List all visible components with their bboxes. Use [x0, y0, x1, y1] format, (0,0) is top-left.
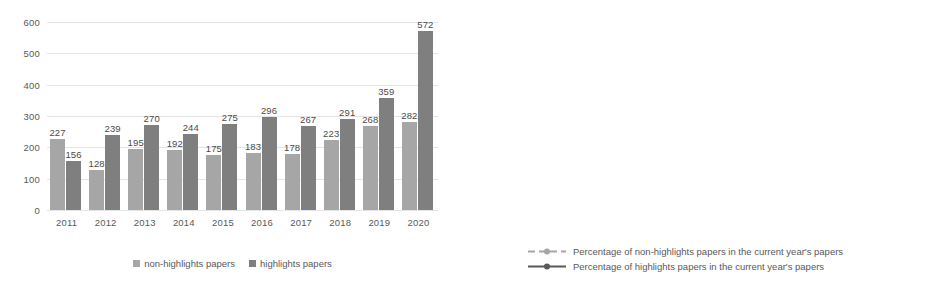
- legend-swatch-icon: [249, 260, 256, 267]
- bar: [402, 122, 417, 210]
- bar-value-label: 291: [339, 107, 355, 118]
- bar: [324, 140, 339, 210]
- bar-chart-legend: non-highlights papershighlights papers: [0, 258, 465, 269]
- bar-value-label: 275: [222, 112, 238, 123]
- bar: [183, 134, 198, 210]
- bar-value-label: 282: [401, 110, 417, 121]
- x-axis-tick-label: 2011: [56, 217, 77, 228]
- bar-group: 195270: [125, 22, 164, 210]
- bar-group: 128239: [86, 22, 125, 210]
- bar: [418, 31, 433, 210]
- x-axis-tick-label: 2018: [329, 217, 351, 228]
- bar-value-label: 267: [300, 114, 316, 125]
- bar-value-label: 128: [89, 158, 105, 169]
- bar: [222, 124, 237, 210]
- figure-container: 0100200300400500600 22715612823919527019…: [0, 0, 931, 289]
- legend-line-marker-icon: [527, 262, 567, 271]
- bar: [340, 119, 355, 210]
- bar-value-label: 178: [284, 142, 300, 153]
- bar-value-label: 175: [206, 143, 222, 154]
- bar: [206, 155, 221, 210]
- y-axis-tick-label: 200: [24, 142, 40, 153]
- y-axis-tick-label: 300: [24, 111, 40, 122]
- y-axis-tick-label: 0: [35, 205, 40, 216]
- legend-label: non-highlights papers: [144, 258, 235, 269]
- y-axis-tick-label: 600: [24, 17, 40, 28]
- bar-value-label: 359: [378, 86, 394, 97]
- bar-group: 268359: [360, 22, 399, 210]
- legend-label: Percentage of highlights papers in the c…: [573, 261, 824, 272]
- bar-value-label: 572: [417, 19, 433, 30]
- bar-value-label: 268: [362, 114, 378, 125]
- bar-group: 227156: [47, 22, 86, 210]
- bar: [246, 153, 261, 210]
- bar-value-label: 239: [105, 123, 121, 134]
- bar-group: 282572: [399, 22, 438, 210]
- legend-swatch-icon: [133, 260, 140, 267]
- x-axis-tick-label: 2016: [251, 217, 273, 228]
- legend-item[interactable]: Percentage of non-highlights papers in t…: [465, 246, 931, 257]
- x-axis-tick-label: 2012: [95, 217, 117, 228]
- bar-value-label: 270: [144, 113, 160, 124]
- bar-value-label: 296: [261, 105, 277, 116]
- bar: [363, 126, 378, 210]
- legend-item[interactable]: non-highlights papers: [133, 258, 235, 269]
- bar-value-label: 244: [183, 122, 199, 133]
- legend-label: highlights papers: [260, 258, 332, 269]
- legend-label: Percentage of non-highlights papers in t…: [573, 246, 843, 257]
- bar: [262, 117, 277, 210]
- line-chart-legend: Percentage of non-highlights papers in t…: [465, 246, 931, 276]
- bar-group: 178267: [282, 22, 321, 210]
- x-axis-tick-label: 2020: [407, 217, 429, 228]
- y-axis-tick-label: 400: [24, 79, 40, 90]
- line-chart-panel: 0%10%20%30%40%50%60%70%80%90%100% 59%35%…: [465, 0, 931, 289]
- bar: [105, 135, 120, 210]
- bar: [379, 98, 394, 210]
- bar-value-label: 223: [323, 128, 339, 139]
- bar-chart-panel: 0100200300400500600 22715612823919527019…: [0, 0, 465, 289]
- bar-value-label: 195: [128, 137, 144, 148]
- bar: [301, 126, 316, 210]
- x-axis-tick-label: 2013: [134, 217, 156, 228]
- bar: [50, 139, 65, 210]
- bar-group: 192244: [164, 22, 203, 210]
- legend-item[interactable]: Percentage of highlights papers in the c…: [465, 261, 931, 272]
- legend-item[interactable]: highlights papers: [249, 258, 332, 269]
- x-axis-tick-label: 2017: [290, 217, 312, 228]
- bar-value-label: 156: [65, 149, 81, 160]
- y-axis-tick-label: 100: [24, 173, 40, 184]
- bar: [128, 149, 143, 210]
- bar-value-label: 183: [245, 141, 261, 152]
- bar: [66, 161, 81, 210]
- bar: [89, 170, 104, 210]
- bar: [285, 154, 300, 210]
- gridline: [47, 210, 438, 211]
- x-axis-tick-label: 2019: [368, 217, 390, 228]
- y-axis-tick-label: 500: [24, 48, 40, 59]
- bar-group: 175275: [203, 22, 242, 210]
- bar-chart-plot-area: 0100200300400500600 22715612823919527019…: [47, 22, 438, 210]
- bar: [144, 125, 159, 210]
- bar-group: 223291: [321, 22, 360, 210]
- bar-group: 183296: [243, 22, 282, 210]
- x-axis-tick-label: 2015: [212, 217, 234, 228]
- bar-value-label: 192: [167, 138, 183, 149]
- x-axis-tick-label: 2014: [173, 217, 195, 228]
- bar: [167, 150, 182, 210]
- bar-value-label: 227: [49, 127, 65, 138]
- legend-line-marker-icon: [527, 247, 567, 256]
